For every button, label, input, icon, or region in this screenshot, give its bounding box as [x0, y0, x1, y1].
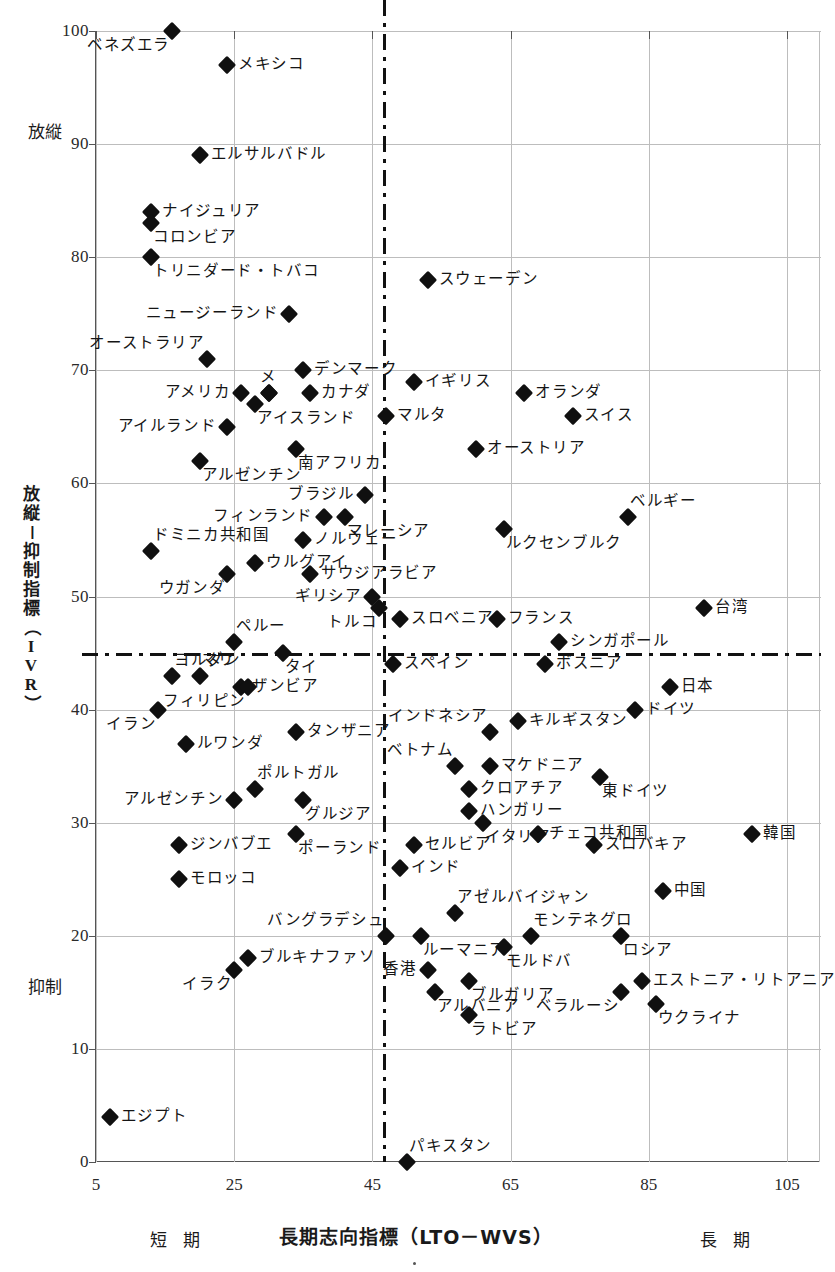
data-point	[260, 384, 278, 402]
data-point	[418, 271, 436, 289]
data-point-label: イラク	[182, 977, 232, 993]
y-tick-mark	[89, 710, 96, 711]
data-point	[481, 757, 499, 775]
y-tick-label: 50	[71, 587, 89, 607]
y-tick-label: 40	[71, 700, 89, 720]
data-point-label: イラン	[106, 717, 156, 733]
data-point	[280, 305, 298, 323]
data-point	[446, 904, 464, 922]
y-axis-title-char: 放	[16, 485, 46, 504]
data-point-label: ウクライナ	[658, 1011, 741, 1027]
data-point-label: コロンビア	[153, 231, 236, 247]
y-axis-title-char: R	[16, 675, 46, 694]
data-point-label: モルドバ	[506, 954, 572, 970]
data-point-label: ロシア	[623, 943, 673, 959]
data-point-label: ベルギー	[630, 495, 696, 511]
data-point	[522, 927, 540, 945]
data-point-label: ギリシア	[295, 589, 361, 605]
data-point-label: バングラデシュ	[267, 913, 384, 929]
data-point-label: マルタ	[397, 408, 447, 424]
data-point	[163, 666, 181, 684]
data-point-label: アルゼンチン	[202, 468, 302, 484]
data-point	[391, 610, 409, 628]
data-point-label: アゼルバイジャン	[457, 890, 589, 906]
data-point	[695, 599, 713, 617]
x-tick-label: 65	[502, 1175, 519, 1195]
data-point-label: ナイジュリア	[162, 204, 261, 220]
data-point-label: シンガポール	[570, 634, 670, 650]
gridline-horizontal	[96, 31, 821, 32]
data-point	[142, 542, 160, 560]
y-axis-title-char: －	[21, 524, 40, 541]
data-point-label: ボスニア	[556, 657, 622, 673]
data-point	[197, 350, 215, 368]
y-tick-label: 70	[71, 360, 89, 380]
data-point	[190, 146, 208, 164]
data-point-label: 中国	[674, 883, 707, 899]
gridline-horizontal	[96, 823, 821, 824]
data-point-label: インド	[411, 860, 461, 876]
data-point-label: ラトビア	[471, 1022, 537, 1038]
data-point-label: クロアチア	[480, 781, 563, 797]
data-point	[653, 881, 671, 899]
data-point	[619, 508, 637, 526]
x-tick-mark	[787, 31, 788, 39]
data-point-label: サウジアラビア	[321, 566, 437, 582]
x-axis-low-label: 短 期	[150, 1226, 206, 1251]
y-tick-label: 100	[62, 21, 89, 41]
data-point-label: ブルキナファソ	[259, 951, 375, 967]
y-axis-high-label: 放縦	[28, 120, 62, 146]
x-tick-mark	[649, 31, 650, 39]
y-tick-mark	[89, 1162, 96, 1163]
data-point-label: 東ドイツ	[602, 785, 668, 801]
y-tick-mark	[89, 1049, 96, 1050]
page-footer-dot	[413, 1262, 416, 1265]
data-point-label: ドイツ	[646, 702, 696, 718]
data-point	[460, 802, 478, 820]
data-point	[398, 1153, 416, 1171]
data-point-label: キルギスタン	[529, 713, 629, 729]
data-point	[405, 836, 423, 854]
y-axis-title-char: I	[16, 637, 46, 656]
y-tick-label: 90	[71, 134, 89, 154]
data-point-label: フィンランド	[213, 510, 313, 526]
data-point-label: 韓国	[763, 826, 796, 842]
gridline-vertical	[234, 31, 235, 1162]
data-point	[377, 406, 395, 424]
data-point	[626, 700, 644, 718]
data-point-label: モンテネグロ	[533, 913, 633, 929]
data-point	[460, 780, 478, 798]
x-tick-label: 105	[774, 1175, 800, 1195]
y-tick-label: 30	[71, 813, 89, 833]
data-point	[101, 1108, 119, 1126]
data-point-label: アイスランド	[257, 411, 356, 427]
x-tick-mark	[234, 31, 235, 39]
data-point-label: オランダ	[535, 385, 601, 401]
data-point-label: ルクセンブルク	[506, 536, 622, 552]
y-axis-title-char: 標	[16, 599, 46, 618]
y-axis-low-label: 抑制	[28, 975, 62, 1001]
data-point	[246, 553, 264, 571]
gridline-horizontal	[96, 257, 821, 258]
data-point-label: アイルランド	[118, 419, 217, 435]
data-point-label: マケドニア	[501, 758, 584, 774]
data-point	[515, 384, 533, 402]
y-tick-mark	[89, 823, 96, 824]
data-point-label: モロッコ	[190, 872, 256, 888]
data-point	[743, 825, 761, 843]
data-point-label: アルバニア	[437, 1000, 520, 1016]
x-tick-label: 5	[92, 1175, 101, 1195]
y-axis-title-char: ）	[21, 695, 40, 712]
data-point	[239, 949, 257, 967]
data-point	[177, 734, 195, 752]
x-tick-label: 25	[226, 1175, 243, 1195]
data-point-label: エジプト	[121, 1109, 187, 1125]
data-point-label: デンマーク	[314, 363, 397, 379]
data-point-label: エルサルバドル	[211, 148, 327, 164]
data-point-label: セルビア	[425, 838, 491, 854]
data-point-label: タイ	[285, 660, 318, 676]
y-tick-mark	[89, 257, 96, 258]
data-point-label: グルジア	[305, 807, 371, 823]
y-axis-title-char: 抑	[16, 542, 46, 561]
data-point	[170, 836, 188, 854]
